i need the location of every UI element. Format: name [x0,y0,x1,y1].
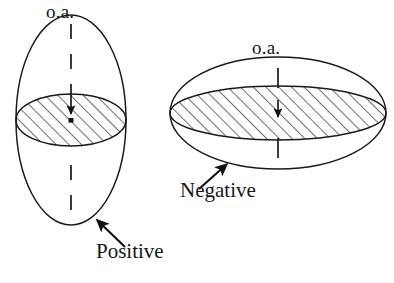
figure-root: o.a. o.a. Positive Negative [0,0,394,283]
right-circular-section-hatch [168,82,390,146]
left-center-dot [69,118,74,123]
indicatrix-diagram-canvas [0,0,394,283]
right-indicatrix-group [168,57,390,189]
negative-sign-label: Negative [180,180,256,201]
optic-axis-label-left: o.a. [46,2,74,21]
positive-sign-label: Positive [96,241,164,262]
optic-axis-label-right: o.a. [252,38,280,57]
left-indicatrix-group [10,15,135,247]
